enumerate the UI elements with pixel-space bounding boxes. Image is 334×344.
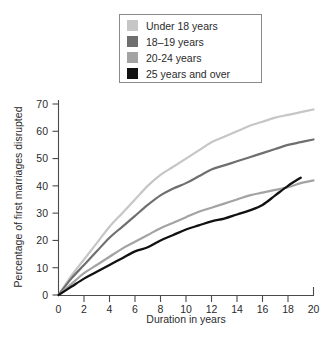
x-tick-label: 20 bbox=[308, 303, 320, 315]
x-tick-label: 2 bbox=[81, 303, 87, 315]
x-tick-label: 0 bbox=[56, 303, 62, 315]
y-tick-label: 30 bbox=[36, 207, 48, 219]
legend-item-label: Under 18 years bbox=[146, 20, 218, 32]
legend-swatch bbox=[127, 68, 138, 79]
legend-item-label: 25 years and over bbox=[146, 68, 231, 80]
chart-series-group bbox=[59, 109, 314, 295]
y-tick-label: 40 bbox=[36, 180, 48, 192]
y-axis-ticks: 010203040506070 bbox=[36, 98, 58, 301]
legend-swatch bbox=[127, 36, 138, 47]
x-tick-label: 18 bbox=[282, 303, 294, 315]
legend-swatch bbox=[127, 20, 138, 31]
x-tick-label: 16 bbox=[257, 303, 269, 315]
series-line bbox=[59, 109, 314, 295]
chart-figure: Under 18 years 18–19 years 20-24 years 2… bbox=[0, 0, 334, 344]
y-tick-label: 60 bbox=[36, 125, 48, 137]
y-tick-label: 0 bbox=[42, 289, 48, 301]
series-line bbox=[59, 180, 314, 295]
legend-item-label: 18–19 years bbox=[146, 36, 204, 48]
x-tick-label: 14 bbox=[231, 303, 243, 315]
y-tick-label: 50 bbox=[36, 152, 48, 164]
y-axis-title: Percentage of first marriages disrupted bbox=[12, 106, 24, 287]
x-tick-label: 4 bbox=[107, 303, 113, 315]
line-chart: Under 18 years 18–19 years 20-24 years 2… bbox=[0, 0, 334, 344]
y-tick-label: 10 bbox=[36, 262, 48, 274]
legend-item-label: 20-24 years bbox=[146, 52, 201, 64]
y-tick-label: 70 bbox=[36, 98, 48, 110]
series-line bbox=[59, 178, 301, 295]
legend-swatch bbox=[127, 52, 138, 63]
chart-legend: Under 18 years 18–19 years 20-24 years 2… bbox=[120, 15, 262, 83]
y-tick-label: 20 bbox=[36, 234, 48, 246]
x-axis-title: Duration in years bbox=[146, 313, 225, 325]
x-tick-label: 6 bbox=[132, 303, 138, 315]
